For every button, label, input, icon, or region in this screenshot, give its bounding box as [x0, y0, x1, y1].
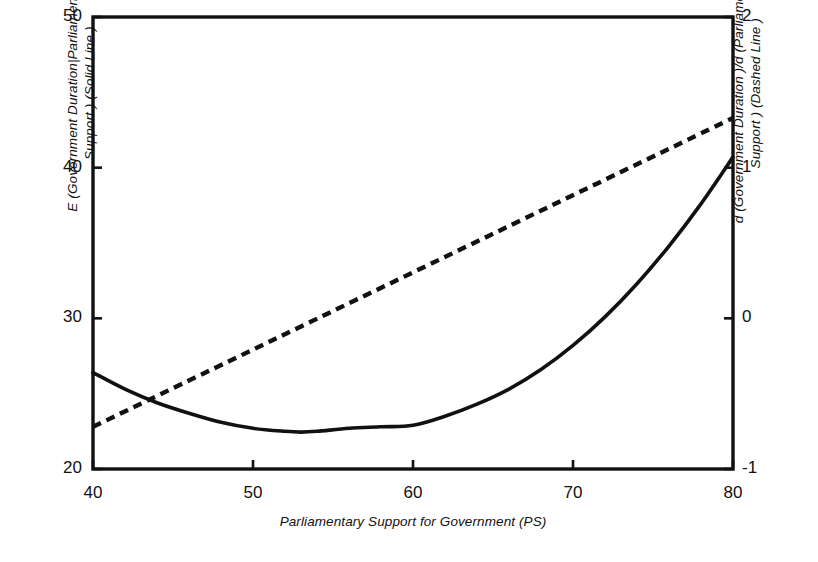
axis-frame: [93, 17, 733, 469]
series-line-2: [93, 118, 733, 427]
series-line-1: [93, 157, 733, 432]
axis-ticks: [93, 17, 733, 469]
data-series: [93, 118, 733, 432]
chart-figure: E (Government Duration|Parliamentary Sup…: [0, 0, 818, 562]
plot-area: [0, 0, 818, 562]
